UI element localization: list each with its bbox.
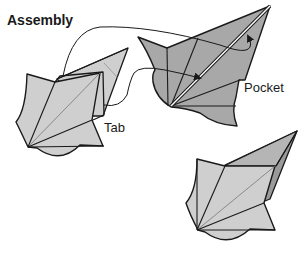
assembled-piece: [186, 131, 297, 240]
tab-label: Tab: [104, 120, 125, 135]
diagram-figure: [0, 0, 306, 256]
pocket-piece: [138, 6, 270, 126]
tab-piece: [16, 48, 128, 156]
assembly-diagram: Assembly: [0, 0, 306, 256]
pocket-label: Pocket: [244, 80, 284, 95]
